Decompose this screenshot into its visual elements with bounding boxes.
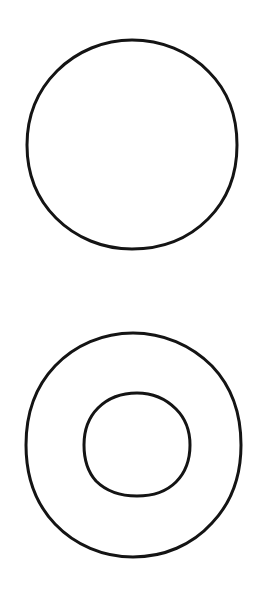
ink-drawing-layer	[0, 0, 268, 592]
annulus-inner-circle-outline	[84, 393, 190, 496]
top-circle-outline	[27, 40, 237, 249]
annulus-outer-circle-outline	[26, 333, 241, 557]
figure-canvas	[0, 0, 268, 592]
